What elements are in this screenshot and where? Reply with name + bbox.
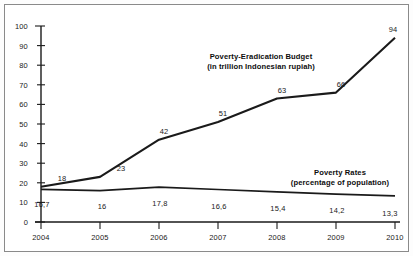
x-tick-label-2005: 2005: [80, 233, 120, 242]
data-label-rate-2007: 16,6: [202, 202, 236, 211]
data-label-rate-2006: 17,8: [143, 199, 177, 208]
y-tick-label: 30: [6, 159, 28, 168]
data-label-rate-2005: 16: [85, 202, 119, 211]
x-tick-label-2004: 2004: [21, 233, 61, 242]
x-tick-label-2010: 2010: [375, 233, 413, 242]
data-label-budget-2006: 42: [147, 127, 181, 136]
x-tick-label-2008: 2008: [257, 233, 297, 242]
data-label-budget-2005: 23: [104, 164, 138, 173]
y-tick-label: 60: [6, 100, 28, 109]
y-tick-label: 40: [6, 140, 28, 149]
series-line-poverty-rate: [41, 187, 395, 196]
y-tick-label: 50: [6, 120, 28, 129]
series-annotation-poverty-rate: Poverty Rates (percentage of population): [273, 168, 407, 188]
data-label-rate-2008: 15,4: [261, 204, 295, 213]
x-axis-ticks: [41, 222, 395, 229]
data-label-budget-2010: 94: [376, 25, 410, 34]
x-tick-label-2006: 2006: [139, 233, 179, 242]
series-annotation-budget-line1: Poverty-Eradication Budget: [186, 52, 336, 62]
data-label-budget-2007: 51: [206, 109, 240, 118]
chart-figure: 100 90 80 70 60 50 40 30 20 10 0 2004 20…: [0, 0, 413, 256]
data-label-rate-2004: 16,7: [25, 200, 59, 209]
y-tick-label: 80: [6, 61, 28, 70]
y-tick-label: 90: [6, 42, 28, 51]
data-label-budget-2004: 18: [45, 174, 79, 183]
x-tick-label-2009: 2009: [316, 233, 356, 242]
y-tick-label: 100: [6, 22, 28, 31]
series-annotation-budget-line2: (in trillion Indonesian rupiah): [186, 62, 336, 72]
series-annotation-rate-line1: Poverty Rates: [273, 168, 407, 178]
y-axis-ticks: [35, 26, 45, 222]
data-label-rate-2009: 14,2: [320, 206, 354, 215]
series-annotation-budget: Poverty-Eradication Budget (in trillion …: [186, 52, 336, 72]
data-label-budget-2008: 63: [265, 86, 299, 95]
data-label-budget-2009: 66: [324, 80, 358, 89]
y-tick-label: 20: [6, 179, 28, 188]
data-label-rate-2010: 13,3: [373, 209, 407, 218]
y-tick-label: 0: [6, 218, 28, 227]
x-tick-label-2007: 2007: [198, 233, 238, 242]
series-annotation-rate-line2: (percentage of population): [273, 178, 407, 188]
line-chart-plot: [0, 0, 413, 256]
y-tick-label: 70: [6, 81, 28, 90]
